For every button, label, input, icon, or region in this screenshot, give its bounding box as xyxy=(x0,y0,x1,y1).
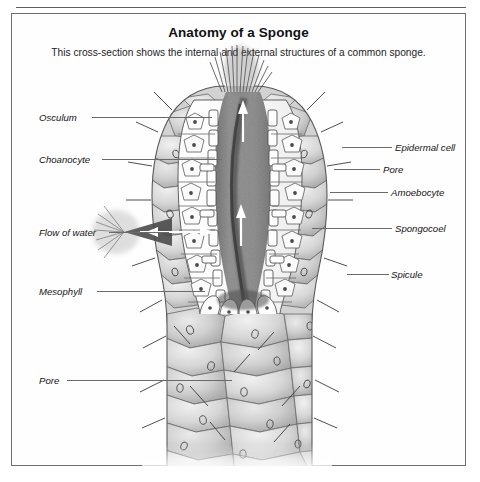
leader-line-epidermal-cell xyxy=(342,147,392,148)
label-osculum: Osculum xyxy=(39,112,77,123)
leader-line-mesophyll xyxy=(97,291,205,292)
label-mesophyll: Mesophyll xyxy=(39,286,82,297)
leader-line-flow-of-water xyxy=(109,232,169,233)
leader-line-spicule xyxy=(347,274,389,275)
leader-line-amoebocyte xyxy=(330,192,388,193)
figure-frame: Anatomy of a Sponge This cross-section s… xyxy=(11,13,466,466)
gastral-shadow xyxy=(217,290,269,310)
label-spongocoel: Spongocoel xyxy=(395,223,446,234)
label-pore-left: Pore xyxy=(39,375,59,386)
top-divider-rule xyxy=(16,7,466,8)
leader-line-spongocoel xyxy=(312,228,392,229)
label-spicule: Spicule xyxy=(391,269,422,280)
bottom-fade xyxy=(142,344,332,467)
label-flow-of-water: Flow of water xyxy=(39,227,96,238)
leader-line-osculum xyxy=(92,117,212,118)
label-choanocyte: Choanocyte xyxy=(39,154,90,165)
leader-line-pore-right xyxy=(334,169,380,170)
leader-line-choanocyte xyxy=(102,159,222,160)
osculum-haze xyxy=(224,46,258,94)
label-pore-right: Pore xyxy=(383,164,403,175)
leader-line-pore-left xyxy=(67,380,232,381)
label-epidermal-cell: Epidermal cell xyxy=(395,142,455,153)
sponge-illustration xyxy=(12,14,467,467)
label-amoebocyte: Amoebocyte xyxy=(391,187,444,198)
